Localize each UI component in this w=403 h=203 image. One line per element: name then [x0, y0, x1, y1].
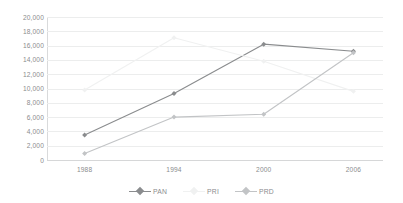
data-point-marker	[172, 35, 177, 40]
y-axis-tick-label: 10,000	[2, 85, 44, 92]
series-line-pri	[85, 38, 354, 92]
series-line-pan	[85, 44, 354, 135]
x-axis-tick-label: 2006	[346, 166, 361, 173]
y-axis-tick-label: 4,000	[2, 128, 44, 135]
x-axis-tick-label: 1994	[166, 166, 181, 173]
series-layer	[47, 17, 383, 160]
data-point-marker	[172, 115, 177, 120]
data-point-marker	[82, 132, 87, 137]
y-axis-tick-label: 14,000	[2, 56, 44, 63]
series-prd	[82, 50, 356, 156]
legend-item-prd[interactable]: PRD	[235, 185, 274, 197]
series-pri	[82, 35, 356, 94]
x-axis-tick-label: 1988	[77, 166, 92, 173]
plot-area	[47, 17, 383, 160]
series-line-prd	[85, 53, 354, 154]
x-axis-labels: 1988199420002006	[0, 166, 403, 178]
y-axis-tick-label: 6,000	[2, 114, 44, 121]
x-axis-tick-label: 2000	[256, 166, 271, 173]
data-point-marker	[82, 87, 87, 92]
y-axis-tick-label: 18,000	[2, 28, 44, 35]
line-chart: 20,00018,00016,00014,00012,00010,0008,00…	[0, 0, 403, 203]
series-pan	[82, 42, 356, 138]
legend-marker-icon	[129, 187, 151, 196]
chart-legend: PANPRIPRD	[0, 184, 403, 198]
data-point-marker	[351, 89, 356, 94]
legend-marker-icon	[235, 187, 257, 196]
legend-label: PRI	[207, 187, 219, 196]
legend-label: PAN	[153, 187, 167, 196]
data-point-marker	[82, 151, 87, 156]
y-axis-tick-label: 8,000	[2, 99, 44, 106]
data-point-marker	[172, 91, 177, 96]
y-axis-tick-label: 0	[2, 157, 44, 164]
y-axis-tick-label: 16,000	[2, 42, 44, 49]
gridline	[47, 160, 383, 161]
legend-item-pri[interactable]: PRI	[183, 185, 219, 197]
data-point-marker	[261, 42, 266, 47]
y-axis-tick-label: 2,000	[2, 142, 44, 149]
legend-item-pan[interactable]: PAN	[129, 185, 167, 197]
data-point-marker	[261, 59, 266, 64]
legend-marker-icon	[183, 187, 205, 196]
y-axis-tick-label: 12,000	[2, 71, 44, 78]
y-axis-tick-label: 20,000	[2, 14, 44, 21]
legend-label: PRD	[259, 187, 274, 196]
